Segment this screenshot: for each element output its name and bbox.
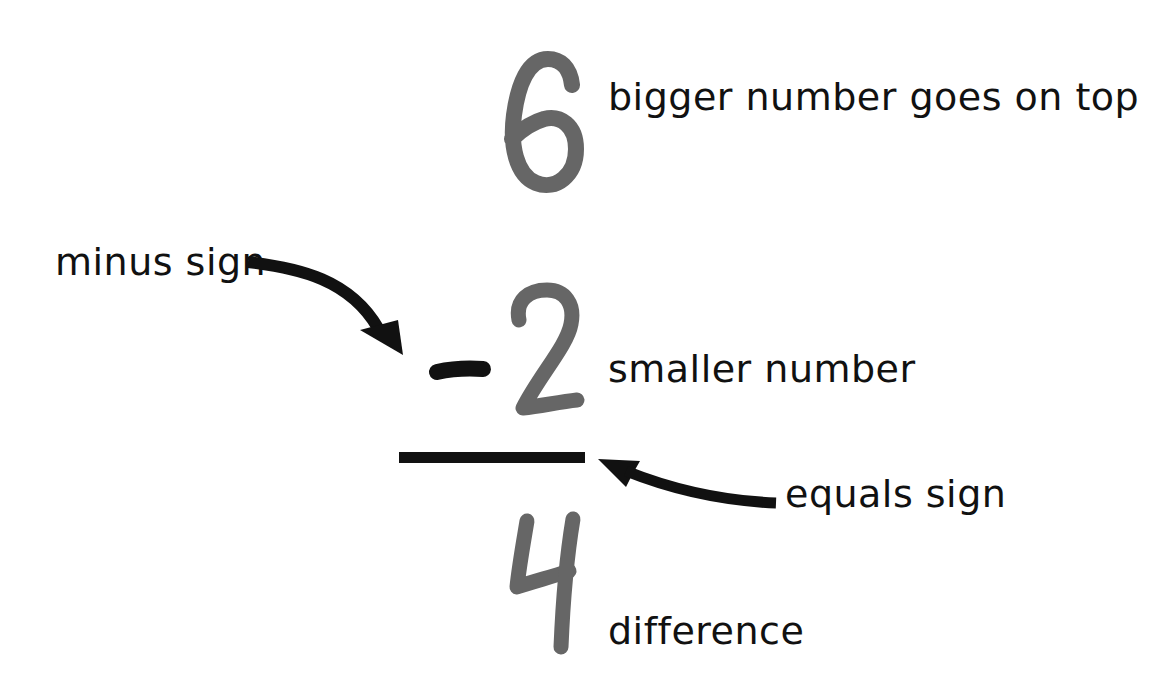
subtrahend-digit-2 — [505, 280, 590, 420]
curved-arrow-down-right-icon — [240, 250, 410, 360]
curved-arrow-left-icon — [596, 455, 781, 515]
result-label: difference — [608, 612, 804, 650]
equals-line — [399, 452, 585, 463]
result-digit-4 — [505, 505, 585, 660]
minuend-label: bigger number goes on top — [608, 78, 1139, 116]
minus-sign — [425, 356, 495, 384]
minuend-digit-6 — [500, 45, 590, 195]
equals-sign-label: equals sign — [785, 475, 1006, 513]
subtrahend-label: smaller number — [608, 350, 916, 388]
minus-sign-label: minus sign — [55, 243, 266, 281]
